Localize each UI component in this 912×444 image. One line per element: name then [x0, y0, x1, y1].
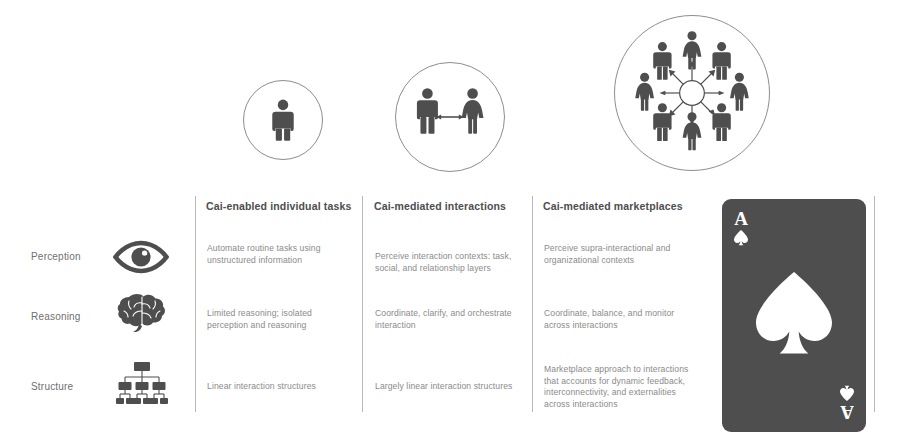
row-label-reasoning: Reasoning: [31, 311, 81, 322]
card-rank-bottom: A: [840, 403, 854, 422]
spade-icon: [733, 229, 749, 249]
cell-structure-individual: Linear interaction structures: [207, 381, 352, 393]
card-rank-top: A: [734, 209, 748, 228]
column-header-individual: Cai-enabled individual tasks: [206, 200, 351, 213]
cell-reasoning-interaction: Coordinate, clarify, and orchestrate int…: [375, 308, 525, 331]
column-header-interaction: Cai-mediated interactions: [374, 200, 506, 213]
network-of-people-icon: [615, 16, 769, 170]
spade-icon-bottom: [839, 382, 855, 402]
stage-circle-interaction: [395, 62, 505, 172]
cell-perception-marketplace: Perceive supra-interactional and organiz…: [544, 243, 694, 266]
cell-perception-interaction: Perceive interaction contexts: task, soc…: [375, 251, 525, 274]
stage-circle-marketplace: [614, 15, 770, 171]
cell-structure-marketplace: Marketplace approach to interactions tha…: [544, 364, 697, 410]
card-corner-top-left: A: [733, 209, 749, 249]
spade-icon-center: [753, 269, 835, 363]
card-corner-bottom-right: A: [839, 382, 855, 422]
brain-icon: [116, 292, 168, 334]
cell-structure-interaction: Largely linear interaction structures: [375, 381, 530, 393]
diagram-canvas: Cai-enabled individual tasks Cai-mediate…: [0, 0, 912, 444]
org-chart-icon: [116, 360, 168, 408]
column-divider-1: [195, 196, 196, 412]
row-label-structure: Structure: [31, 381, 73, 392]
column-header-marketplace: Cai-mediated marketplaces: [543, 200, 683, 213]
cell-perception-individual: Automate routine tasks using unstructure…: [207, 243, 347, 266]
stage-circle-individual: [243, 80, 323, 160]
column-divider-2: [362, 196, 363, 412]
two-people-arrow-icon: [396, 63, 504, 171]
single-person-icon: [244, 81, 322, 159]
column-divider-3: [532, 196, 533, 412]
card-divider: [874, 196, 875, 412]
ace-of-spades-card: A A: [722, 199, 866, 432]
cell-reasoning-individual: Limited reasoning; isolated perception a…: [207, 308, 347, 331]
cell-reasoning-marketplace: Coordinate, balance, and monitor across …: [544, 308, 694, 331]
row-label-perception: Perception: [31, 251, 81, 262]
eye-icon: [113, 240, 169, 274]
